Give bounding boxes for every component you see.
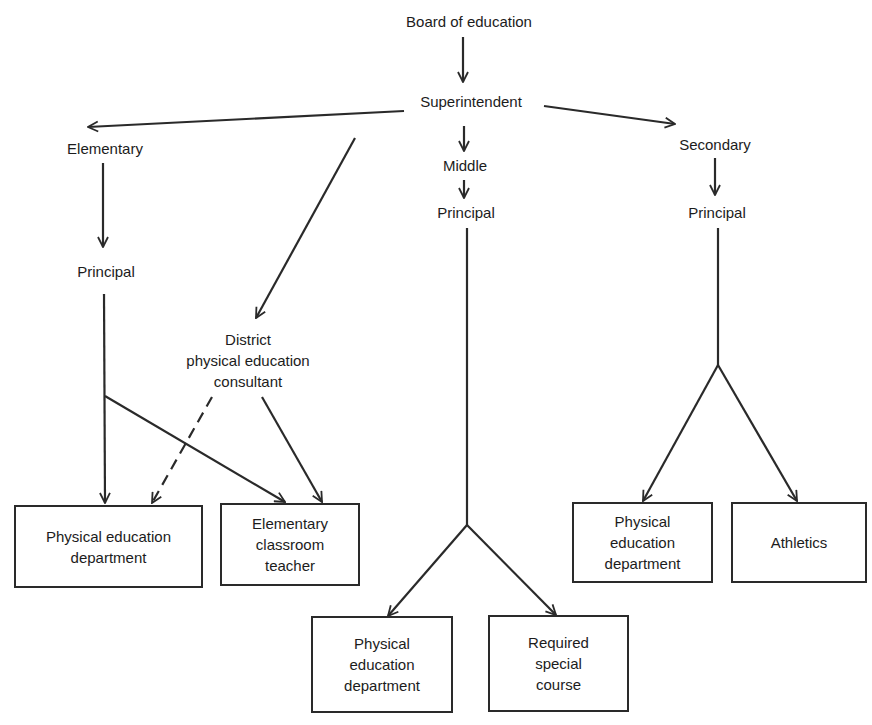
box-elementary-classroom-teacher: Elementary classroom teacher [220, 503, 360, 586]
box-line: Physical [344, 633, 420, 654]
edge-elemprincipal-pedept [104, 294, 105, 503]
box-line: Physical [605, 511, 681, 532]
node-elementary-principal: Principal [77, 262, 135, 281]
node-middle-principal: Principal [437, 203, 495, 222]
edge-sec-athletics [718, 365, 797, 501]
box-line: department [605, 553, 681, 574]
box-line: Physical education [46, 526, 171, 547]
consultant-line-3: consultant [186, 371, 309, 392]
box-line: Elementary [252, 513, 328, 534]
box-line: Athletics [771, 532, 828, 553]
node-district-consultant: District physical education consultant [186, 329, 309, 392]
node-board-of-education: Board of education [406, 12, 532, 31]
box-line: Required [528, 632, 589, 653]
box-line: education [344, 654, 420, 675]
node-secondary: Secondary [679, 135, 751, 154]
box-line: education [605, 532, 681, 553]
node-secondary-principal: Principal [688, 203, 746, 222]
edge-middle-pedept [388, 525, 467, 616]
consultant-line-1: District [186, 329, 309, 350]
box-line: department [344, 675, 420, 696]
node-superintendent: Superintendent [420, 92, 522, 111]
box-secondary-pe-department: Physical education department [572, 502, 713, 583]
edge-elemprincipal-teacher [105, 396, 285, 502]
box-athletics: Athletics [731, 502, 867, 583]
box-line: course [528, 674, 589, 695]
box-required-special-course: Required special course [488, 615, 629, 712]
box-line: teacher [252, 555, 328, 576]
box-middle-pe-department: Physical education department [311, 616, 453, 713]
box-line: special [528, 653, 589, 674]
edge-sec-pedept [643, 365, 718, 501]
edge-consultant-teacher [262, 397, 322, 502]
node-elementary: Elementary [67, 139, 143, 158]
box-elementary-pe-department: Physical education department [14, 505, 203, 588]
box-line: department [46, 547, 171, 568]
edge-superintendent-secondary [544, 106, 675, 124]
edge-consultant-pedept-dashed [152, 397, 212, 503]
node-middle: Middle [443, 156, 487, 175]
edge-superintendent-elementary [88, 111, 404, 127]
consultant-line-2: physical education [186, 350, 309, 371]
edge-middle-required [467, 525, 556, 615]
edge-superintendent-consultant [256, 138, 355, 318]
box-line: classroom [252, 534, 328, 555]
